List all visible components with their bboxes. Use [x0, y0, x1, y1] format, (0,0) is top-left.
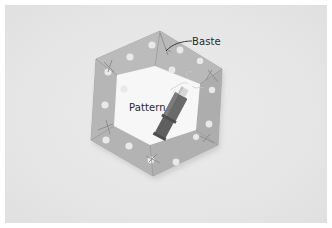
baste-label: Baste: [192, 37, 221, 47]
hexagon-illustration: [5, 5, 327, 223]
photo-hexagon-project: Baste Pattern: [5, 5, 327, 223]
pattern-label: Pattern: [129, 103, 166, 113]
